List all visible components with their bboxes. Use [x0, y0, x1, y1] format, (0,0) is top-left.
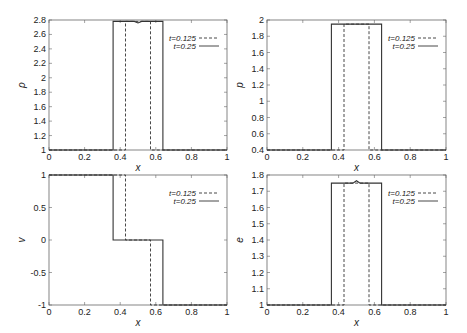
- y-tick-label: 2.6: [33, 29, 46, 39]
- x-tick-label: 1: [224, 152, 229, 162]
- subplot-e: 00.20.40.60.8111.11.21.31.41.51.61.71.8x…: [234, 170, 449, 328]
- y-tick-label: 2: [259, 15, 264, 25]
- legend-label: t=0.25: [393, 42, 416, 51]
- x-tick-label: 0.2: [78, 152, 91, 162]
- y-tick-label: 1.4: [251, 235, 264, 245]
- axes-frame: [267, 20, 446, 150]
- legend-label: t=0.25: [174, 42, 197, 51]
- x-tick-label: 0.2: [297, 152, 310, 162]
- y-tick-label: 2.2: [33, 58, 46, 68]
- x-tick-label: 0.4: [332, 307, 345, 317]
- x-tick-label: 1: [443, 152, 448, 162]
- x-tick-label: 0.8: [404, 307, 417, 317]
- x-tick-label: 0: [264, 152, 269, 162]
- x-tick-label: 0: [264, 307, 269, 317]
- subplot-p: 00.20.40.60.810.40.60.811.21.41.61.82xpt…: [234, 15, 449, 173]
- x-tick-label: 0.6: [150, 152, 163, 162]
- y-tick-label: 1.4: [33, 116, 46, 126]
- x-axis-label: x: [353, 317, 360, 328]
- y-axis-label: p: [234, 82, 245, 89]
- y-tick-label: -0.5: [30, 268, 46, 278]
- y-tick-label: 1.5: [251, 219, 264, 229]
- y-tick-label: 0: [41, 235, 46, 245]
- y-axis-label: e: [234, 237, 245, 243]
- y-axis-label: ρ: [16, 82, 27, 89]
- x-tick-label: 0.4: [114, 307, 127, 317]
- y-tick-label: 0.5: [33, 203, 46, 213]
- series-line-t=0.125: [267, 24, 446, 150]
- x-tick-label: 0.6: [150, 307, 163, 317]
- x-tick-label: 1: [224, 307, 229, 317]
- x-axis-label: x: [353, 162, 360, 173]
- y-tick-label: 0.8: [251, 113, 264, 123]
- y-tick-label: 1: [41, 170, 46, 180]
- series-line-t=0.25: [267, 24, 446, 150]
- figure-grid: 00.20.40.60.8111.21.41.61.822.22.42.62.8…: [0, 0, 467, 333]
- y-tick-label: 1: [259, 300, 264, 310]
- x-tick-label: 0: [46, 307, 51, 317]
- series-line-t=0.25: [49, 21, 227, 150]
- y-tick-label: 0.4: [251, 145, 264, 155]
- series-line-t=0.25: [267, 181, 446, 305]
- y-tick-label: 2: [41, 73, 46, 83]
- y-tick-label: 1: [259, 96, 264, 106]
- series-line-t=0.125: [49, 21, 227, 150]
- subplot-v: 00.20.40.60.81-1-0.500.51xvt=0.125t=0.25: [16, 170, 230, 328]
- y-tick-label: 1.6: [33, 102, 46, 112]
- x-tick-label: 0.6: [368, 152, 381, 162]
- x-tick-label: 1: [443, 307, 448, 317]
- y-tick-label: 1: [41, 145, 46, 155]
- y-tick-label: -1: [38, 300, 46, 310]
- subplot-rho: 00.20.40.60.8111.21.41.61.822.22.42.62.8…: [16, 15, 230, 173]
- y-tick-label: 1.8: [251, 170, 264, 180]
- axes-frame: [267, 175, 446, 305]
- y-tick-label: 1.4: [251, 64, 264, 74]
- y-tick-label: 2.4: [33, 44, 46, 54]
- x-tick-label: 0.4: [332, 152, 345, 162]
- legend-label: t=0.25: [174, 197, 197, 206]
- y-tick-label: 1.6: [251, 48, 264, 58]
- y-tick-label: 1.2: [251, 268, 264, 278]
- x-tick-label: 0.8: [185, 307, 198, 317]
- y-tick-label: 1.8: [33, 87, 46, 97]
- x-tick-label: 0.6: [368, 307, 381, 317]
- y-tick-label: 1.7: [251, 186, 264, 196]
- x-axis-label: x: [135, 317, 142, 328]
- y-tick-label: 1.2: [33, 131, 46, 141]
- x-tick-label: 0.4: [114, 152, 127, 162]
- y-tick-label: 1.3: [251, 251, 264, 261]
- legend-label: t=0.25: [393, 197, 416, 206]
- y-tick-label: 1.1: [251, 284, 264, 294]
- y-axis-label: v: [16, 237, 27, 243]
- x-tick-label: 0.8: [404, 152, 417, 162]
- x-tick-label: 0.2: [78, 307, 91, 317]
- axes-frame: [49, 20, 227, 150]
- y-tick-label: 2.8: [33, 15, 46, 25]
- y-tick-label: 1.8: [251, 31, 264, 41]
- y-tick-label: 1.6: [251, 203, 264, 213]
- y-tick-label: 0.6: [251, 129, 264, 139]
- x-tick-label: 0.2: [297, 307, 310, 317]
- series-line-t=0.25: [49, 175, 227, 305]
- x-tick-label: 0.8: [185, 152, 198, 162]
- x-axis-label: x: [135, 162, 142, 173]
- y-tick-label: 1.2: [251, 80, 264, 90]
- x-tick-label: 0: [46, 152, 51, 162]
